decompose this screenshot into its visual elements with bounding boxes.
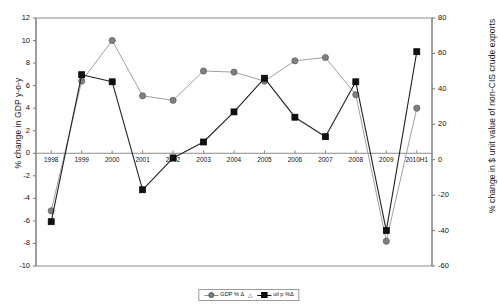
x-axis-tick-2003: 2003 xyxy=(187,156,221,163)
data-point xyxy=(231,109,237,115)
plot-area xyxy=(0,0,498,305)
right-axis-tick--20: -20 xyxy=(438,190,464,199)
left-axis-tick--10: -10 xyxy=(0,261,30,270)
data-point xyxy=(170,97,176,103)
data-point xyxy=(231,69,237,75)
x-axis-tick-2008: 2008 xyxy=(339,156,373,163)
chart-container: % change in GDP y-o-y % change in $ unit… xyxy=(0,0,498,305)
data-point xyxy=(322,54,328,60)
chart-legend: GDP % Δ △ oil p %Δ xyxy=(198,289,299,301)
x-axis-tick-2005: 2005 xyxy=(247,156,281,163)
x-axis-tick-2004: 2004 xyxy=(217,156,251,163)
x-axis-tick-2009: 2009 xyxy=(369,156,403,163)
left-axis-tick-0: 0 xyxy=(0,148,30,157)
left-axis-tick--6: -6 xyxy=(0,216,30,225)
legend-line-gdp xyxy=(204,295,218,296)
legend-item-oil[interactable]: oil p %Δ xyxy=(257,292,294,298)
data-point xyxy=(292,58,298,64)
data-point xyxy=(79,72,85,78)
right-axis-tick-60: 60 xyxy=(438,48,464,57)
left-axis-tick-2: 2 xyxy=(0,126,30,135)
left-axis-tick--2: -2 xyxy=(0,171,30,180)
x-axis-tick-2001: 2001 xyxy=(126,156,160,163)
data-point xyxy=(322,134,328,140)
left-axis-tick--8: -8 xyxy=(0,238,30,247)
data-point xyxy=(383,238,389,244)
legend-label-gdp: GDP % Δ xyxy=(220,292,244,298)
right-axis-tick-80: 80 xyxy=(438,13,464,22)
square-marker-icon xyxy=(261,292,267,298)
right-axis-tick--60: -60 xyxy=(438,261,464,270)
data-point xyxy=(200,68,206,74)
right-axis-tick-40: 40 xyxy=(438,84,464,93)
circle-marker-icon xyxy=(208,292,214,298)
x-axis-tick-1999: 1999 xyxy=(65,156,99,163)
x-axis-tick-2006: 2006 xyxy=(278,156,312,163)
data-point xyxy=(414,49,420,55)
data-point xyxy=(292,114,298,120)
x-axis-tick-2002: 2002 xyxy=(156,156,190,163)
x-axis-tick-1998: 1998 xyxy=(34,156,68,163)
left-axis-tick-4: 4 xyxy=(0,103,30,112)
data-point xyxy=(383,228,389,234)
legend-line-oil xyxy=(257,295,271,296)
legend-label-oil: oil p %Δ xyxy=(273,292,294,298)
data-point xyxy=(414,105,420,111)
left-axis-tick-6: 6 xyxy=(0,81,30,90)
x-axis-tick-2007: 2007 xyxy=(308,156,342,163)
left-axis-tick--4: -4 xyxy=(0,193,30,202)
data-point xyxy=(140,93,146,99)
legend-separator: △ xyxy=(248,292,253,298)
right-axis-tick--40: -40 xyxy=(438,226,464,235)
data-point xyxy=(262,75,268,81)
legend-item-gdp[interactable]: GDP % Δ xyxy=(204,292,244,298)
data-point xyxy=(48,219,54,225)
x-axis-tick-2000: 2000 xyxy=(95,156,129,163)
data-point xyxy=(353,79,359,85)
data-point xyxy=(109,37,115,43)
series-oil xyxy=(48,49,420,234)
series-gdp xyxy=(48,37,420,244)
left-axis-tick-12: 12 xyxy=(0,13,30,22)
left-axis-tick-8: 8 xyxy=(0,58,30,67)
left-axis-tick-10: 10 xyxy=(0,36,30,45)
x-axis-tick-2010H1: 2010H1 xyxy=(400,156,434,163)
data-point xyxy=(201,139,207,145)
right-axis-tick-20: 20 xyxy=(438,119,464,128)
data-point xyxy=(140,187,146,193)
right-axis-tick-0: 0 xyxy=(438,155,464,164)
data-point xyxy=(109,79,115,85)
